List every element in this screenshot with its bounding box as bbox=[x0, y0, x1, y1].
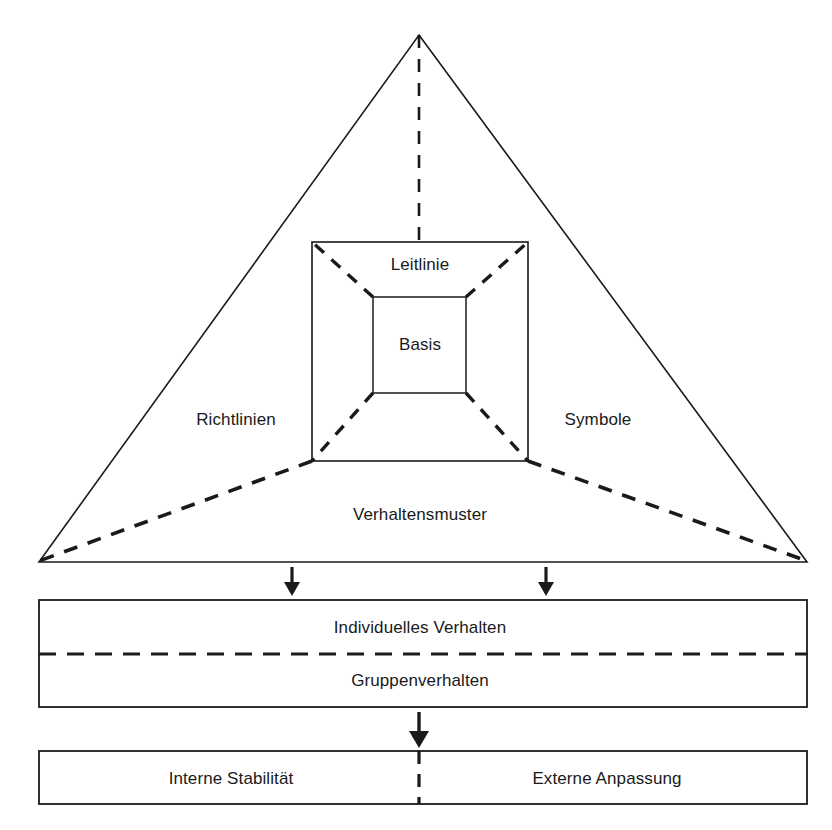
down-arrow-icon-right bbox=[538, 567, 554, 596]
dashed-diagonal-inner-tl bbox=[312, 242, 373, 297]
label-gruppenverhalten: Gruppenverhalten bbox=[351, 672, 489, 689]
outcome-box-outline bbox=[39, 751, 807, 804]
label-interne-stabilitaet: Interne Stabilität bbox=[169, 770, 294, 787]
dashed-diagonal-inner-bl bbox=[312, 393, 373, 461]
diagram-canvas: Leitlinie Basis Richtlinien Symbole Verh… bbox=[0, 0, 832, 830]
dashed-diagonal-inner-tr bbox=[466, 242, 528, 297]
label-leitlinie: Leitlinie bbox=[391, 256, 450, 273]
diagram-graphics bbox=[0, 0, 832, 830]
down-arrow-icon-center bbox=[409, 712, 429, 748]
label-externe-anpassung: Externe Anpassung bbox=[532, 770, 681, 787]
label-individuelles-verhalten: Individuelles Verhalten bbox=[334, 619, 506, 636]
dashed-diagonal-inner-br bbox=[466, 393, 528, 461]
label-symbole: Symbole bbox=[565, 411, 632, 428]
label-basis: Basis bbox=[399, 336, 441, 353]
dashed-diagonal-outer-left bbox=[39, 461, 312, 561]
down-arrow-icon-left bbox=[284, 567, 300, 596]
dashed-diagonal-outer-right bbox=[528, 461, 807, 561]
pyramid-outline bbox=[39, 35, 807, 562]
label-richtlinien: Richtlinien bbox=[196, 411, 276, 428]
label-verhaltensmuster: Verhaltensmuster bbox=[353, 506, 487, 523]
